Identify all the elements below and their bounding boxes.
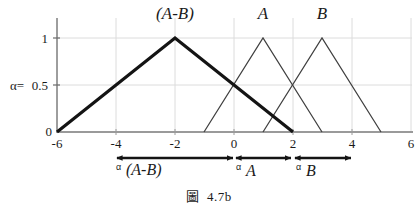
x-tick-label-neg6: -6: [52, 136, 63, 151]
curve-label-a: A: [257, 4, 269, 23]
alpha-interval-text-b: B: [306, 162, 316, 179]
alpha-interval-label-a: α A: [236, 162, 256, 179]
caption-label: 圖: [186, 186, 200, 205]
alpha-interval-text-a: A: [245, 162, 256, 179]
x-tick-label-neg2: -2: [170, 136, 181, 151]
alpha-interval-label-a-minus-b: α (A-B): [116, 161, 162, 179]
alpha-superscript-a: α: [236, 162, 241, 172]
x-tick-label-2: 2: [290, 136, 297, 151]
figure-container: 1 0.5 0 α= -6 -4 -2 0 2 4 6 (A-B) A B: [0, 0, 418, 219]
alpha-superscript-b: α: [296, 162, 301, 172]
alpha-interval-label-b: α B: [296, 162, 316, 179]
alpha-interval-text-a-minus-b: (A-B): [126, 161, 162, 179]
y-tick-label-0point5: 0.5: [32, 78, 48, 93]
curve-label-b: B: [317, 4, 328, 23]
alpha-axis-label: α=: [10, 78, 24, 93]
curve-label-a-minus-b: (A-B): [156, 4, 194, 23]
figure-caption: 圖4.7b: [0, 186, 418, 205]
gridlines: [57, 18, 412, 132]
caption-number: 4.7b: [207, 189, 232, 205]
y-tick-label-1: 1: [42, 31, 49, 46]
x-tick-label-neg4: -4: [111, 136, 122, 151]
x-tick-label-0: 0: [231, 136, 238, 151]
x-tick-label-4: 4: [349, 136, 356, 151]
x-tick-label-6: 6: [408, 136, 415, 151]
axis-lines: [57, 18, 413, 133]
alpha-superscript-a-minus-b: α: [116, 162, 121, 172]
